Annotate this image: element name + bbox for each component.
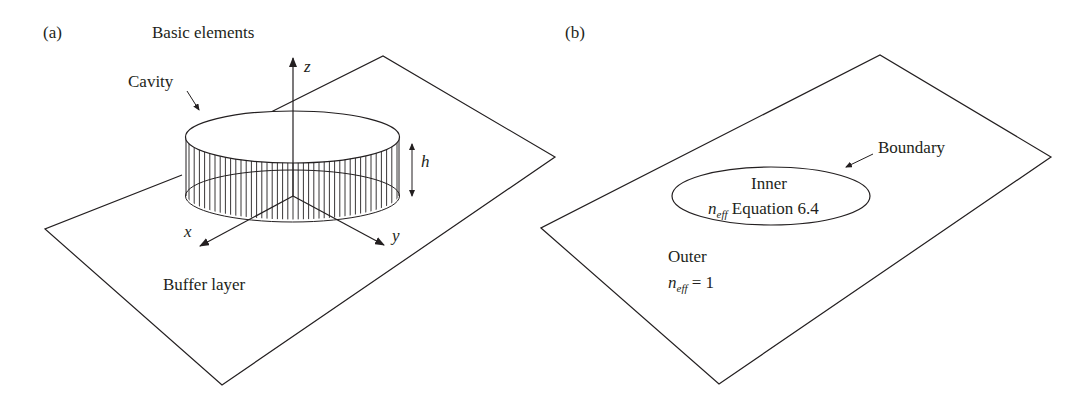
cavity-label: Cavity xyxy=(128,73,173,90)
boundary-pointer-arrow xyxy=(846,154,873,167)
inner-neff-equation: neff Equation 6.4 xyxy=(708,200,819,220)
outer-eff-subscript: eff xyxy=(677,282,688,294)
panel-b-label: (b) xyxy=(565,24,585,41)
height-label: h xyxy=(421,153,430,170)
inner-equation-ref: Equation 6.4 xyxy=(728,199,819,218)
y-axis-label: y xyxy=(392,227,400,244)
y-axis xyxy=(293,196,384,245)
panel-a-label: (a) xyxy=(43,24,62,41)
outer-n-symbol: n xyxy=(668,273,677,292)
inner-region-label: Inner xyxy=(751,175,787,192)
buffer-layer-plane xyxy=(45,56,555,385)
z-axis-label: z xyxy=(304,58,311,75)
outer-neff-value: neff = 1 xyxy=(668,274,714,294)
inner-eff-subscript: eff xyxy=(717,208,728,220)
inner-n-symbol: n xyxy=(708,199,717,218)
outer-region-label: Outer xyxy=(668,248,707,265)
diagram-canvas xyxy=(0,0,1092,405)
buffer-layer-label: Buffer layer xyxy=(163,276,245,293)
x-axis-label: x xyxy=(184,223,192,240)
panel-a-title: Basic elements xyxy=(152,24,254,41)
cavity-pointer-arrow xyxy=(187,91,199,110)
boundary-label: Boundary xyxy=(878,139,945,156)
outer-value: = 1 xyxy=(688,273,715,292)
